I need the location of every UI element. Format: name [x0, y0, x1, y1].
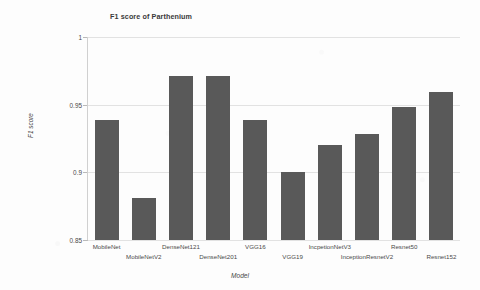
x-axis-title: Model: [0, 272, 480, 279]
y-tick-label: 0.85: [70, 237, 82, 244]
bar: [243, 120, 267, 240]
y-tick-mark: [83, 105, 87, 106]
x-tick-label: MobileNet: [93, 243, 121, 250]
plot-area: [88, 37, 460, 240]
x-tick-label: MobileNetV2: [126, 253, 161, 260]
bar: [169, 76, 193, 240]
y-axis-tick-labels: 0.850.90.951: [52, 37, 82, 240]
gridline: [88, 105, 460, 106]
x-tick-label: InceptionResnetV2: [341, 253, 393, 260]
bar: [132, 198, 156, 240]
x-tick-label: DenseNet201: [199, 253, 237, 260]
bar: [355, 134, 379, 240]
bar: [318, 145, 342, 240]
bar: [392, 107, 416, 240]
bar: [206, 76, 230, 240]
y-tick-label: 0.9: [73, 169, 82, 176]
y-tick-label: 0.95: [70, 101, 82, 108]
x-tick-label: Resnet50: [391, 243, 418, 250]
x-tick-label: VGG16: [245, 243, 266, 250]
y-tick-mark: [83, 37, 87, 38]
y-tick-mark: [83, 240, 87, 241]
x-tick-label: DenseNet121: [162, 243, 200, 250]
x-tick-label: VGG19: [282, 253, 303, 260]
x-tick-label: IncpetionNetV3: [309, 243, 351, 250]
chart-container: F1 score of Parthenium F1 score 0.850.90…: [0, 0, 480, 290]
y-tick-label: 1: [78, 34, 82, 41]
bar: [281, 172, 305, 240]
bar: [95, 120, 119, 240]
gridline: [88, 37, 460, 38]
x-tick-label: Resnet152: [426, 253, 456, 260]
y-tick-mark: [83, 172, 87, 173]
y-axis-title: F1 score: [27, 113, 34, 138]
chart-title: F1 score of Parthenium: [110, 12, 192, 21]
x-axis-tick-labels: MobileNetMobileNetV2DenseNet121DenseNet2…: [88, 241, 460, 267]
bar: [429, 92, 453, 240]
